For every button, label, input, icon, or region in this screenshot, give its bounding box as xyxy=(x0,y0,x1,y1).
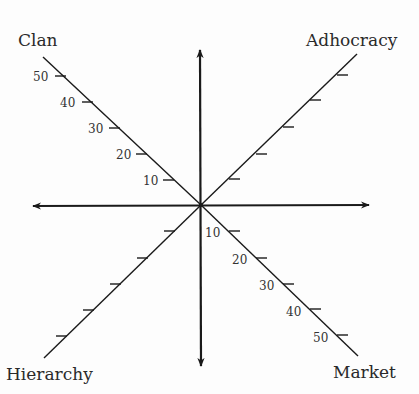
hierarchy-label: Hierarchy xyxy=(6,366,93,383)
competing-values-diagram: 10 20 30 40 50 10 20 30 40 50 xyxy=(0,0,419,394)
market-tick-40: 40 xyxy=(286,305,301,319)
market-tick-20: 20 xyxy=(232,253,247,267)
clan-tick-30: 30 xyxy=(88,122,103,136)
clan-label: Clan xyxy=(18,32,58,49)
adhocracy-diagonal-axis xyxy=(201,54,357,205)
hierarchy-ticks xyxy=(56,231,175,336)
clan-tick-10: 10 xyxy=(143,174,158,188)
clan-diagonal-axis xyxy=(43,57,201,205)
clan-tick-20: 20 xyxy=(116,148,131,162)
axes-graphic: 10 20 30 40 50 10 20 30 40 50 xyxy=(0,0,419,394)
market-label: Market xyxy=(333,364,396,381)
market-tick-50: 50 xyxy=(313,331,328,345)
clan-ticks xyxy=(55,76,174,180)
adhocracy-label: Adhocracy xyxy=(306,32,397,49)
origin-point xyxy=(199,203,203,207)
clan-tick-50: 50 xyxy=(33,70,48,84)
vertical-axis xyxy=(200,50,201,366)
market-tick-30: 30 xyxy=(259,279,274,293)
adhocracy-ticks xyxy=(229,75,348,179)
clan-scale-labels: 10 20 30 40 50 xyxy=(33,70,158,188)
market-ticks xyxy=(229,231,348,335)
market-diagonal-axis xyxy=(201,205,358,356)
market-tick-10: 10 xyxy=(205,226,220,240)
clan-tick-40: 40 xyxy=(60,96,75,110)
hierarchy-diagonal-axis xyxy=(44,205,201,358)
market-scale-labels: 10 20 30 40 50 xyxy=(205,226,328,345)
